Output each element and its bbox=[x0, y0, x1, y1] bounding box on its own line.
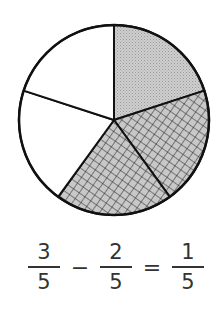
denominator: 5 bbox=[181, 270, 194, 294]
equals-sign: = bbox=[138, 255, 166, 280]
numerator: 1 bbox=[181, 240, 194, 264]
fraction-bar bbox=[172, 266, 204, 268]
fraction-bar bbox=[100, 266, 132, 268]
fraction-left: 3 5 bbox=[26, 240, 62, 294]
denominator: 5 bbox=[37, 270, 50, 294]
numerator: 3 bbox=[37, 240, 50, 264]
numerator: 2 bbox=[109, 240, 122, 264]
fraction-result: 1 5 bbox=[170, 240, 206, 294]
fraction-bar bbox=[28, 266, 60, 268]
fraction-right: 2 5 bbox=[98, 240, 134, 294]
fraction-equation: 3 5 − 2 5 = 1 5 bbox=[26, 236, 206, 298]
fraction-pie-chart bbox=[0, 0, 217, 230]
minus-sign: − bbox=[66, 255, 94, 280]
denominator: 5 bbox=[109, 270, 122, 294]
